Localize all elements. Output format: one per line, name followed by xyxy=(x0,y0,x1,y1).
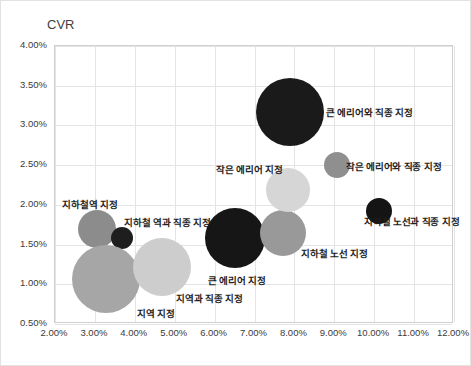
y-tick-label: 1.50% xyxy=(1,238,47,249)
y-axis-title: CVR xyxy=(47,17,74,32)
gridline-vertical xyxy=(55,46,56,322)
bubble-data-label: 지역과 직종 지정 xyxy=(176,291,242,305)
y-tick-label: 3.50% xyxy=(1,79,47,90)
bubble-data-label: 큰 에리어 지정 xyxy=(208,273,266,287)
y-tick-label: 3.00% xyxy=(1,118,47,129)
gridline-vertical xyxy=(454,46,455,322)
gridline-vertical xyxy=(414,46,415,322)
gridline-horizontal xyxy=(55,125,452,126)
bubble-data-label: 지하철 노선 지정 xyxy=(301,246,367,260)
bubble-data-label: 작은 에리어와 직종 지정 xyxy=(346,159,441,173)
bubble-point[interactable] xyxy=(205,208,265,268)
bubble-data-label: 지역 지정 xyxy=(137,306,175,320)
gridline-vertical xyxy=(374,46,375,322)
bubble-data-label: 지하철 역과 직종 지정 xyxy=(124,215,211,229)
gridline-vertical xyxy=(334,46,335,322)
bubble-point[interactable] xyxy=(260,210,306,256)
x-tick-label: 12.00% xyxy=(426,327,471,338)
bubble-point[interactable] xyxy=(133,238,191,296)
bubble-data-label: 지하철역 지정 xyxy=(62,197,117,211)
bubble-point[interactable] xyxy=(256,78,324,146)
y-tick-label: 4.00% xyxy=(1,39,47,50)
y-tick-label: 2.50% xyxy=(1,158,47,169)
y-tick-label: 2.00% xyxy=(1,198,47,209)
bubble-data-label: 큰 에리어와 직종 지정 xyxy=(326,105,413,119)
chart-container: CVR CTR 0.50%1.00%1.50%2.00%2.50%3.00%3.… xyxy=(0,0,471,366)
gridline-horizontal xyxy=(55,86,452,87)
bubble-data-label: 작은 에리어 지정 xyxy=(216,162,282,176)
gridline-horizontal xyxy=(55,324,452,325)
y-tick-label: 1.00% xyxy=(1,277,47,288)
gridline-horizontal xyxy=(55,46,452,47)
bubble-point[interactable] xyxy=(78,210,116,248)
bubble-point[interactable] xyxy=(72,245,140,313)
bubble-data-label: 지하철 노선과 직종 지정 xyxy=(364,214,459,228)
